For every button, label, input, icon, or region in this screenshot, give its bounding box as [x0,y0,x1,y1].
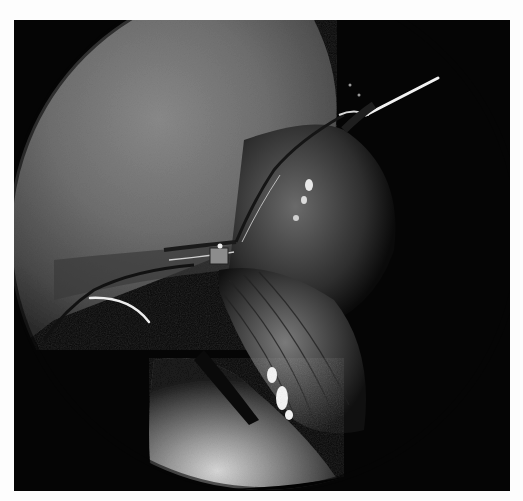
endoscopic-photo [14,20,510,491]
instrument-shaft [339,78,438,130]
endoscopic-image-frame [14,20,510,491]
